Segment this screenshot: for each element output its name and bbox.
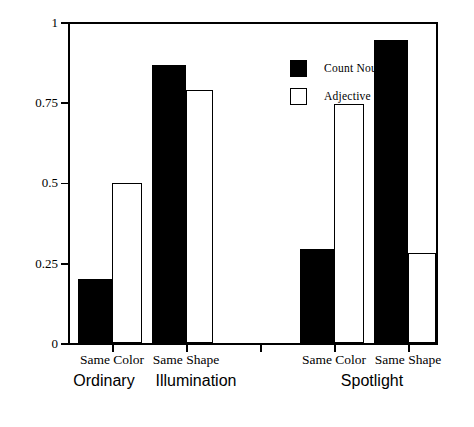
group-label-ordinary: Ordinary — [73, 372, 134, 390]
axis-top-spine — [68, 22, 438, 24]
y-tick-label-0-25: 0.25 — [35, 256, 58, 272]
bar-adjective-ordinary-same-shape — [186, 90, 213, 344]
legend-swatch-open-icon — [290, 88, 307, 105]
y-tick-label-0: 0 — [52, 336, 59, 352]
x-label-same-shape-spotlight: Same Shape — [375, 352, 441, 368]
legend-item-adjective: Adjective — [290, 82, 440, 110]
y-tick-label-0-75: 0.75 — [35, 95, 58, 111]
legend-label-count-noun: Count Noun — [324, 62, 383, 74]
x-label-same-shape-ordinary: Same Shape — [153, 352, 219, 368]
bar-count-noun-ordinary-same-color — [78, 279, 112, 343]
bar-count-noun-spotlight-same-color — [300, 249, 334, 344]
x-tick-4 — [334, 344, 336, 352]
axis-left-spine — [68, 22, 70, 345]
bar-chart-figure: Proportion "yes" 1 0.75 0.5 0.25 0 — [0, 0, 474, 427]
x-tick-2 — [186, 344, 188, 352]
axis-bottom-spine — [68, 343, 438, 345]
plot-area: 1 0.75 0.5 0.25 0 — [68, 22, 438, 345]
y-tick-label-0-5: 0.5 — [42, 175, 58, 191]
chart-legend: Count Noun Adjective — [290, 54, 440, 110]
bar-adjective-ordinary-same-color — [112, 183, 142, 344]
bar-adjective-spotlight-same-color — [334, 104, 364, 343]
legend-swatch-filled-icon — [290, 60, 307, 77]
bar-count-noun-ordinary-same-shape — [152, 65, 186, 343]
legend-label-adjective: Adjective — [324, 90, 371, 102]
x-tick-5 — [408, 344, 410, 352]
x-tick-3 — [260, 344, 262, 352]
y-tick-0: 0 — [61, 343, 68, 345]
legend-item-count-noun: Count Noun — [290, 54, 440, 82]
x-tick-1 — [112, 344, 114, 352]
y-tick-label-1: 1 — [52, 15, 59, 31]
y-tick-1: 1 — [61, 22, 68, 24]
bar-adjective-spotlight-same-shape — [408, 253, 436, 343]
y-tick-0-25: 0.25 — [61, 263, 68, 265]
group-label-spotlight: Spotlight — [341, 372, 403, 390]
y-tick-0-75: 0.75 — [61, 102, 68, 104]
y-tick-0-5: 0.5 — [61, 183, 68, 185]
x-label-same-color-ordinary: Same Color — [80, 352, 144, 368]
group-label-illumination: Illumination — [156, 372, 237, 390]
x-label-same-color-spotlight: Same Color — [302, 352, 366, 368]
